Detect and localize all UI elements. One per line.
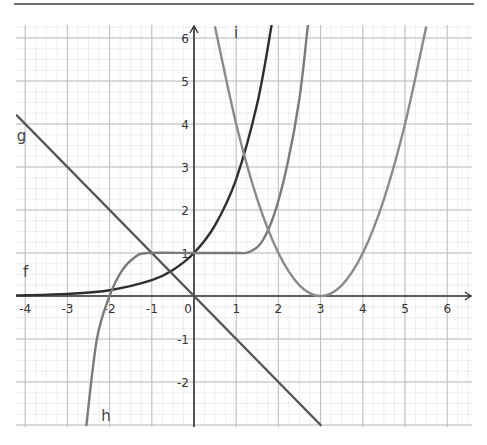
y-tick-label: 2 (181, 204, 189, 218)
y-tick-label: 6 (181, 32, 189, 46)
y-tick-label: -1 (177, 333, 189, 347)
y-tick-label: 5 (181, 75, 189, 89)
x-tick-label: 6 (443, 302, 451, 316)
curve-f (17, 25, 272, 295)
x-tick-label: 3 (317, 302, 325, 316)
x-tick-label: 0 (184, 302, 192, 316)
y-tick-label: 4 (181, 118, 189, 132)
major-grid (16, 25, 472, 427)
curve-label-i: i (234, 24, 238, 42)
curve-g (17, 115, 321, 425)
curve-label-f: f (23, 263, 29, 281)
x-tick-label: 5 (401, 302, 409, 316)
x-tick-label: -1 (146, 302, 158, 316)
axes (16, 26, 471, 427)
x-tick-label: 4 (359, 302, 367, 316)
x-tick-label: -3 (61, 302, 73, 316)
curve-label-h: h (101, 407, 111, 425)
curve-h (86, 25, 308, 425)
x-tick-label: 2 (275, 302, 283, 316)
x-tick-label: 1 (232, 302, 240, 316)
y-tick-label: 3 (181, 161, 189, 175)
function-graph: -4-3-2-10123456-2-1123456 fghi (0, 0, 487, 445)
minor-grid (16, 25, 472, 427)
curve-label-g: g (17, 127, 27, 145)
x-tick-label: -4 (19, 302, 31, 316)
y-tick-label: -2 (177, 376, 189, 390)
curve-labels: fghi (17, 24, 239, 425)
